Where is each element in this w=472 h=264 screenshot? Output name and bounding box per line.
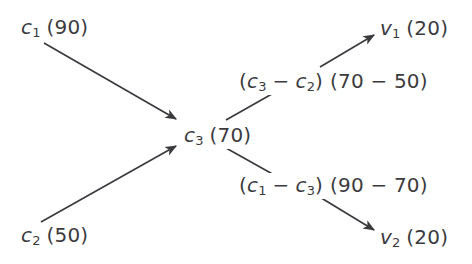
node-c2-value: (50) xyxy=(46,223,88,247)
node-v1-subscript: 1 xyxy=(392,26,400,41)
node-v2-variable: v2 xyxy=(380,225,400,249)
node-c3-variable: c3 xyxy=(184,123,203,147)
edge-c2-c3 xyxy=(41,146,176,222)
node-v2-value: (20) xyxy=(406,225,448,249)
edge-label-bottom-open: ( xyxy=(239,173,247,197)
edge-label-top-term-b: c2 xyxy=(295,69,314,93)
node-c2-variable: c2 xyxy=(21,223,40,247)
node-v2-subscript: 2 xyxy=(392,235,400,250)
edge-c3-v2 xyxy=(318,196,374,230)
edge-label-top-term-a: c3 xyxy=(247,69,266,93)
node-c1: c1(90) xyxy=(21,17,88,39)
node-c3-subscript: 3 xyxy=(195,133,203,148)
node-c1-subscript: 1 xyxy=(32,25,40,40)
edge-label-bottom-operator: − xyxy=(272,173,291,197)
edge-label-bottom-term-a: c1 xyxy=(247,173,266,197)
node-c2: c2(50) xyxy=(21,225,88,247)
edge-label-top-open: ( xyxy=(239,69,247,93)
node-v1: v1(20) xyxy=(377,16,451,42)
edge-label-bottom-term-b: c3 xyxy=(295,173,314,197)
node-v1-value: (20) xyxy=(406,16,448,40)
edge-label-bottom: (c1−c3)(90 − 70) xyxy=(236,173,431,199)
node-v1-variable: v1 xyxy=(380,16,400,40)
edge-label-top-close: ) xyxy=(315,69,323,93)
edge-label-top: (c3−c2)(70 − 50) xyxy=(236,69,431,95)
edge-label-bottom-numeric: (90 − 70) xyxy=(330,173,428,197)
diagram-canvas: c1(90) c2(50) c3(70) v1(20) v2(20) (c3−c… xyxy=(0,0,472,264)
edge-c3-v1 xyxy=(320,35,374,67)
edge-c1-c3 xyxy=(44,43,176,119)
edge-label-bottom-close: ) xyxy=(315,173,323,197)
node-c3-value: (70) xyxy=(209,123,251,147)
node-v2: v2(20) xyxy=(377,225,451,251)
edge-label-top-operator: − xyxy=(272,69,291,93)
node-c1-value: (90) xyxy=(46,15,88,39)
node-c1-variable: c1 xyxy=(21,15,40,39)
edge-label-top-numeric: (70 − 50) xyxy=(330,69,428,93)
node-c2-subscript: 2 xyxy=(32,233,40,248)
node-c3: c3(70) xyxy=(181,123,254,149)
